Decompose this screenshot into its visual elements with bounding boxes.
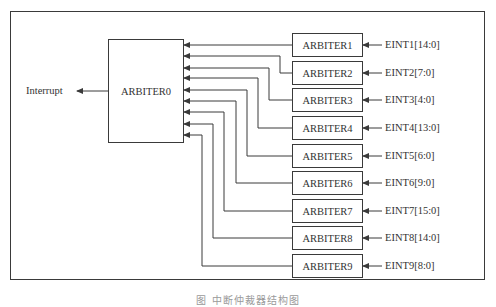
arbiter9-label: ARBITER9 (292, 254, 363, 278)
eint6-label: EINT6[9:0] (385, 177, 435, 189)
arbiter1-label: ARBITER1 (292, 33, 363, 57)
figure-caption: 图 中断仲裁器结构图 (0, 292, 496, 307)
arbiter5-label: ARBITER5 (292, 144, 363, 168)
arbiter6-label: ARBITER6 (292, 171, 363, 195)
arbiter4-label: ARBITER4 (292, 116, 363, 140)
eint3-label: EINT3[4:0] (385, 94, 435, 106)
arbiter8-label: ARBITER8 (292, 226, 363, 250)
interrupt-label: Interrupt (26, 85, 63, 97)
eint8-label: EINT8[14:0] (385, 232, 440, 244)
eint5-label: EINT5[6:0] (385, 150, 435, 162)
eint1-label: EINT1[14:0] (385, 39, 440, 51)
eint-input-arrows (363, 45, 382, 266)
arbiter3-label: ARBITER3 (292, 88, 363, 112)
arbiter7-label: ARBITER7 (292, 199, 363, 223)
eint2-label: EINT2[7:0] (385, 67, 435, 79)
eint4-label: EINT4[13:0] (385, 122, 440, 134)
eint7-label: EINT7[15:0] (385, 205, 440, 217)
eint9-label: EINT9[8:0] (385, 260, 435, 272)
arbiter0-label: ARBITER0 (108, 39, 184, 143)
connection-wires (184, 45, 292, 266)
arbiter2-label: ARBITER2 (292, 61, 363, 85)
